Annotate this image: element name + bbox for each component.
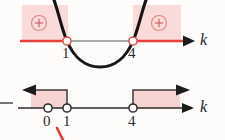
bottom-axis-label: k (200, 99, 207, 115)
bottom-right-direction-arrowhead (176, 85, 190, 96)
top-root-marker-1 (63, 37, 71, 45)
top-root-marker-4 (129, 37, 137, 45)
top-tick-label-4: 4 (128, 46, 136, 61)
bottom-axis-arrowhead (182, 103, 194, 113)
red-pointer-mark (57, 128, 63, 140)
bottom-marker-0 (44, 104, 52, 112)
sign-chart-figure: 1 4 k 0 1 4 k (0, 0, 225, 140)
top-tick-label-1: 1 (62, 46, 70, 61)
bottom-left-direction-arrowhead (22, 85, 36, 96)
bottom-tick-label-0: 0 (43, 114, 51, 129)
bottom-right-interval-shade (133, 90, 180, 108)
bottom-marker-1 (63, 104, 71, 112)
figure-graphics (0, 0, 225, 140)
bottom-tick-label-1: 1 (63, 114, 71, 129)
top-axis-arrowhead (183, 36, 195, 47)
bottom-marker-4 (129, 104, 137, 112)
bottom-tick-label-4: 4 (128, 114, 136, 129)
top-axis-label: k (200, 32, 207, 48)
